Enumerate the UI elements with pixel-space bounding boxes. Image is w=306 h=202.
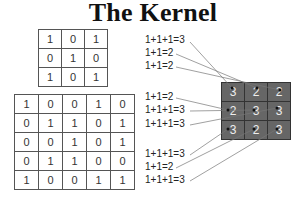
connector-lines bbox=[0, 0, 306, 202]
